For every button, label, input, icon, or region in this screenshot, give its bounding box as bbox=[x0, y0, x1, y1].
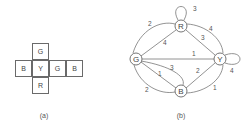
weight-g-b-outer: 2 bbox=[145, 86, 149, 93]
edge-r-r bbox=[176, 7, 187, 21]
weight-r-y-straight: 3 bbox=[201, 34, 205, 41]
node-y: Y bbox=[214, 53, 226, 65]
edge-b-y-straight bbox=[186, 63, 215, 88]
weight-g-y: 1 bbox=[192, 50, 196, 57]
edge-g-b-inner bbox=[141, 61, 183, 85]
weight-y-y: 4 bbox=[230, 67, 234, 74]
weight-g-r-straight: 4 bbox=[163, 39, 167, 46]
weight-g-r-outer: 2 bbox=[148, 20, 152, 27]
edge-b-y-outer bbox=[187, 65, 223, 93]
node-g-label: G bbox=[133, 55, 139, 64]
node-r-label: R bbox=[178, 22, 184, 31]
node-y-label: Y bbox=[217, 55, 223, 64]
node-b-label: B bbox=[178, 87, 183, 96]
node-r: R bbox=[175, 20, 187, 32]
weight-r-y-outer: 4 bbox=[209, 25, 213, 32]
weight-r-r: 3 bbox=[193, 5, 197, 12]
weight-g-b-straight: 1 bbox=[158, 70, 162, 77]
weight-b-y-straight: 2 bbox=[196, 67, 200, 74]
node-g: G bbox=[130, 53, 142, 65]
weight-b-y-outer: 1 bbox=[213, 84, 217, 91]
edge-y-y bbox=[225, 54, 240, 65]
color-graph: 3 2 4 4 3 1 4 1 3 2 2 1 R G Y B bbox=[0, 0, 252, 128]
edge-g-r-outer bbox=[133, 23, 175, 53]
node-b: B bbox=[175, 85, 187, 97]
weight-g-b-inner: 3 bbox=[170, 64, 174, 71]
caption-b: (b) bbox=[177, 112, 186, 119]
edge-g-r-straight bbox=[141, 30, 176, 56]
edge-r-y-outer bbox=[187, 24, 223, 53]
